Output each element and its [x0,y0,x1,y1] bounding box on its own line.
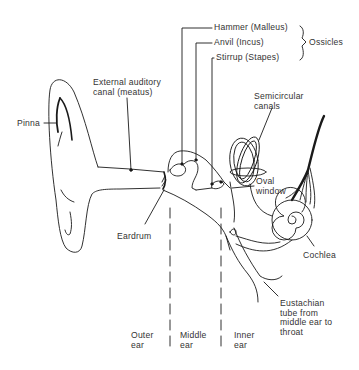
ossicles-label: Ossicles [309,38,343,48]
semicircular-canals-label: Semicircular canals [254,92,304,111]
stirrup-label: Stirrup (Stapes) [216,53,279,63]
pinna-label: Pinna [17,119,40,129]
region-inner-ear-label: Inner ear [234,331,255,350]
region-middle-ear-label: Middle ear [180,331,207,350]
external-canal-label: External auditory canal (meatus) [93,78,161,97]
ossicles-brace [300,26,306,60]
hammer-label: Hammer (Malleus) [214,23,288,33]
eardrum-shape [162,172,166,189]
leader-lines [44,28,314,296]
pinna-shape [49,80,164,253]
oval-window-label: Oval window [256,177,286,196]
eustachian-tube-label: Eustachian tube from middle ear to throa… [280,299,332,337]
cochlea-label: Cochlea [303,251,336,261]
region-outer-ear-label: Outer ear [131,331,154,350]
eardrum-label: Eardrum [117,232,151,242]
eustachian-tube-shape [226,228,282,302]
middle-ear-shape [163,151,230,250]
auditory-nerve-shape [286,116,324,208]
anvil-label: Anvil (Incus) [214,38,264,48]
